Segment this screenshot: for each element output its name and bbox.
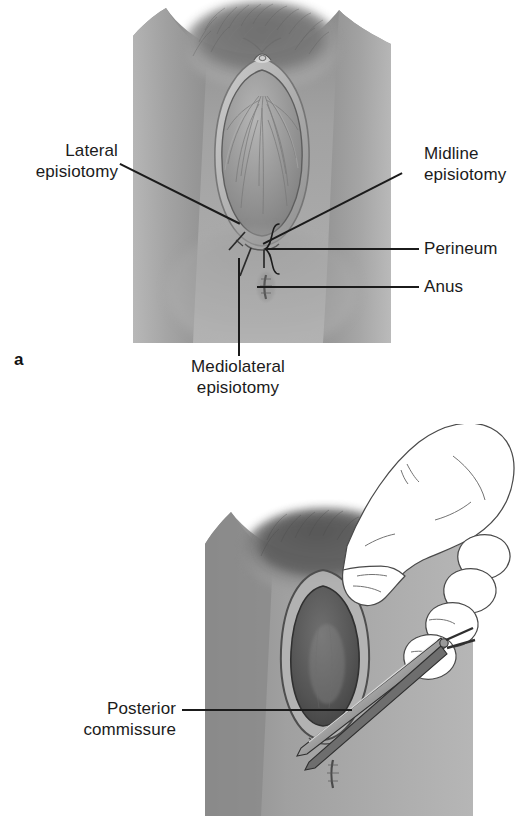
- label-anus: Anus: [424, 276, 531, 297]
- label-perineum: Perineum: [424, 238, 531, 259]
- leader-anus: [257, 286, 419, 288]
- label-mediolateral-episiotomy: Mediolateral episiotomy: [163, 356, 313, 398]
- figure-root: Lateral episiotomy Mediolateral episioto…: [0, 0, 531, 816]
- illustration-panel-b: [205, 424, 531, 816]
- leader-mediolateral-episiotomy: [238, 258, 240, 356]
- label-lateral-episiotomy: Lateral episiotomy: [14, 140, 118, 182]
- panel-letter-a: a: [14, 350, 23, 370]
- leader-posterior-commissure: [182, 709, 352, 711]
- label-midline-episiotomy: Midline episiotomy: [424, 143, 531, 185]
- leader-perineum: [265, 248, 419, 250]
- illustration-panel-a: [133, 0, 391, 343]
- label-posterior-commissure: Posterior commissure: [28, 698, 176, 740]
